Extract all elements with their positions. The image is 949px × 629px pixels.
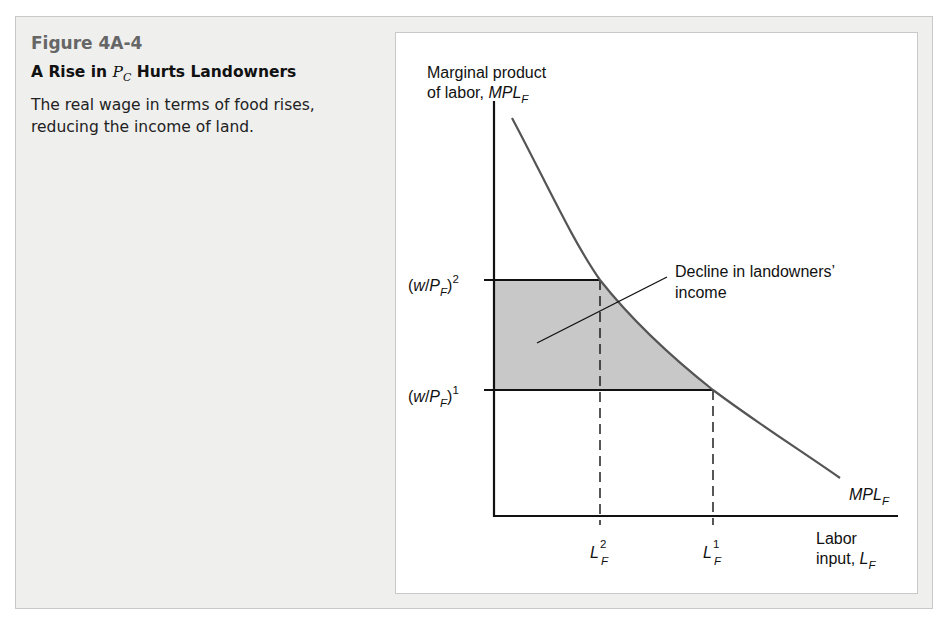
curve-var: MPL bbox=[849, 486, 882, 503]
y-axis-var: MPL bbox=[488, 84, 521, 101]
w1-P: P bbox=[429, 388, 440, 405]
curve-var-sub: F bbox=[882, 495, 890, 507]
y-axis-title-line1: Marginal product bbox=[427, 64, 547, 81]
L1-sup: 1 bbox=[713, 538, 719, 550]
w2-P: P bbox=[429, 277, 440, 294]
y-axis-var-sub: F bbox=[521, 93, 529, 105]
L2-label: L2F bbox=[590, 538, 609, 567]
x-axis-title-line2: input, LF bbox=[816, 550, 877, 571]
L1-sub: F bbox=[714, 555, 722, 567]
L2-var: L bbox=[590, 544, 599, 561]
x-axis-text: input, bbox=[816, 550, 860, 567]
curve-label: MPLF bbox=[849, 486, 890, 507]
x-axis-var: L bbox=[860, 550, 869, 567]
L1-var: L bbox=[703, 544, 712, 561]
y-axis-title-line2: of labor, MPLF bbox=[427, 84, 529, 105]
wage1-label: (w/PF)1 bbox=[408, 384, 459, 409]
annotation-line1: Decline in landowners’ bbox=[675, 263, 835, 280]
x-axis-var-sub: F bbox=[869, 559, 877, 571]
w1-sup: 1 bbox=[452, 384, 458, 396]
y-axis-text: of labor, bbox=[427, 84, 488, 101]
wage2-label: (w/PF)2 bbox=[408, 273, 459, 298]
chart-svg: Marginal product of labor, MPLF (w/PF)2 … bbox=[0, 0, 949, 629]
L2-sup: 2 bbox=[600, 538, 606, 550]
annotation-line2: income bbox=[675, 284, 727, 301]
L1-label: L1F bbox=[703, 538, 722, 567]
w2-sup: 2 bbox=[452, 273, 458, 285]
L2-sub: F bbox=[601, 555, 609, 567]
x-axis-title-line1: Labor bbox=[816, 530, 858, 547]
